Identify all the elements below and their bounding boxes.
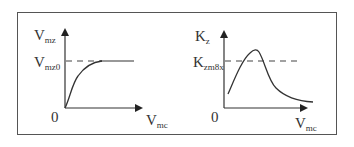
right-x-axis-label: Vmc [295,116,317,133]
right-ref-label: Kzm8x [193,55,224,72]
left-x-axis-label: Vmc [146,113,168,130]
left-curve [65,61,102,108]
left-origin-label: 0 [51,110,59,125]
left-y-axis-label: Vmz [34,28,56,45]
left-chart [65,30,141,108]
right-y-axis-label: Kz [195,29,210,46]
left-ref-label: Vmz0 [34,55,60,72]
right-origin-label: 0 [211,110,219,125]
right-chart [224,32,313,108]
right-curve [228,50,313,102]
